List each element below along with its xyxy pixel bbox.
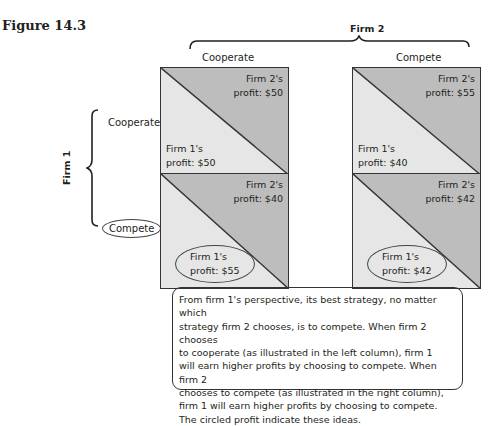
cell-comp-comp: Firm 2'sprofit: $42 Firm 1'sprofit: $42 <box>352 173 481 289</box>
cell-coop-comp: Firm 2'sprofit: $55 Firm 1'sprofit: $40 <box>352 67 481 175</box>
row-label-compete: Compete <box>102 219 161 238</box>
firm1-profit: Firm 1'sprofit: $50 <box>166 142 216 170</box>
note-line: The circled profit indicate these ideas. <box>179 413 456 426</box>
firm1-profit: Firm 1'sprofit: $40 <box>358 142 408 170</box>
note-line: firm 1 will earn higher profits by choos… <box>179 399 456 412</box>
firm2-profit: Firm 2'sprofit: $40 <box>233 178 283 206</box>
firm2-profit: Firm 2'sprofit: $50 <box>233 72 283 100</box>
firm1-label: Firm 1 <box>61 151 72 185</box>
firm1-profit-circled: Firm 1'sprofit: $55 <box>175 245 255 283</box>
note-line: will earn higher profits by choosing to … <box>179 359 456 386</box>
explanation-note: From firm 1's perspective, its best stra… <box>172 287 463 390</box>
firm1-profit-circled: Firm 1'sprofit: $42 <box>367 245 447 283</box>
firm1-brace-icon <box>86 108 100 228</box>
cell-coop-coop: Firm 2'sprofit: $50 Firm 1'sprofit: $50 <box>160 67 289 175</box>
note-line: to cooperate (as illustrated in the left… <box>179 346 456 359</box>
cell-comp-coop: Firm 2'sprofit: $40 Firm 1'sprofit: $55 <box>160 173 289 289</box>
note-line: strategy firm 2 chooses, is to compete. … <box>179 320 456 347</box>
firm2-label: Firm 2 <box>350 23 384 34</box>
firm2-profit: Firm 2'sprofit: $55 <box>425 72 475 100</box>
firm2-profit: Firm 2'sprofit: $42 <box>425 178 475 206</box>
column-label-cooperate: Cooperate <box>202 52 254 63</box>
column-label-compete: Compete <box>396 52 441 63</box>
row-label-cooperate: Cooperate <box>108 117 160 128</box>
note-line: From firm 1's perspective, its best stra… <box>179 293 456 320</box>
note-line: chooses to compete (as illustrated in th… <box>179 386 456 399</box>
figure-title: Figure 14.3 <box>2 18 86 33</box>
firm2-brace-icon <box>185 35 497 51</box>
